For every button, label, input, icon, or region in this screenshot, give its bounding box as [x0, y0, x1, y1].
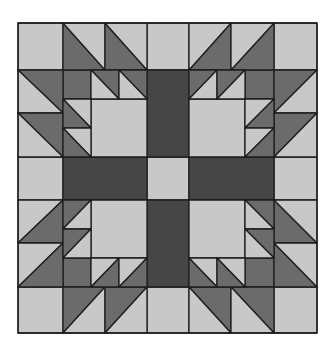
paw-bl-small-square — [63, 258, 91, 287]
paw-tl-big-square — [91, 99, 147, 157]
paw-br-small-square — [245, 258, 274, 287]
edge-right-center-square — [274, 157, 317, 200]
bar-left-square — [63, 157, 147, 200]
bar-bottom-square — [147, 200, 189, 287]
edge-top-center-square — [147, 23, 189, 70]
bear-paw-quilt-block — [0, 0, 331, 351]
paw-br-big-square — [189, 200, 245, 258]
paw-bl-big-square — [91, 200, 147, 258]
corner-tl-square — [18, 23, 63, 70]
paw-tl-small-square — [63, 70, 91, 99]
corner-bl-square — [18, 287, 63, 333]
center-square — [147, 157, 189, 200]
corner-br-square — [274, 287, 317, 333]
bar-right-square — [189, 157, 274, 200]
bar-top-square — [147, 70, 189, 157]
corner-tr-square — [274, 23, 317, 70]
paw-tr-big-square — [189, 99, 245, 157]
edge-left-center-square — [18, 157, 63, 200]
paw-tr-small-square — [245, 70, 274, 99]
edge-bottom-center-square — [147, 287, 189, 333]
